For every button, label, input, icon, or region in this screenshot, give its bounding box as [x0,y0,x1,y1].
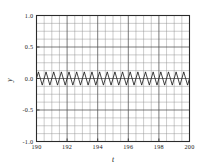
chart-figure: 1.00.50.0-0.5-1.0 190192194196198200 t y [0,0,202,167]
x-tick-label: 198 [154,143,164,150]
x-tick-label: 194 [93,143,103,150]
line-chart: 1.00.50.0-0.5-1.0 190192194196198200 t y [0,0,202,167]
x-tick-label: 200 [184,143,194,150]
y-axis-title: y [5,78,14,83]
y-tick-label: 0.5 [25,43,34,50]
x-tick-label: 196 [123,143,133,150]
y-tick-label: 0.0 [25,75,34,82]
y-tick-label: 1.0 [25,12,34,19]
y-tick-label: -0.5 [23,106,34,113]
x-tick-label: 192 [62,143,72,150]
x-tick-label: 190 [31,143,41,150]
